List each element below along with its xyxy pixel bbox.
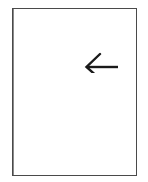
dotted-line-upper xyxy=(20,75,132,77)
figure-frame xyxy=(12,8,137,176)
left-arrow-svg xyxy=(73,51,119,73)
left-arrow-label xyxy=(73,73,74,74)
figure-canvas xyxy=(0,0,148,182)
dotted-line-lower xyxy=(20,108,132,110)
left-arrow-icon xyxy=(73,51,119,73)
figure-caption xyxy=(0,0,1,1)
